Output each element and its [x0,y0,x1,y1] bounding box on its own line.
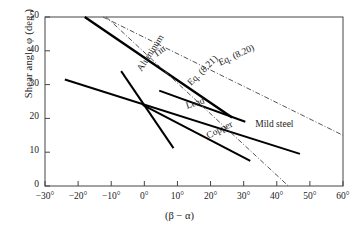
y-tick-label: 0 [9,179,39,189]
x-axis-label: (β − α) [0,210,359,221]
series-line [103,17,343,135]
y-tick-label: 40 [9,44,39,54]
series-annotation: Mild steel [255,119,293,129]
series-line [65,80,300,154]
y-tick-label: 10 [9,145,39,155]
y-tick-label: 50 [9,10,39,20]
series-line [121,71,173,148]
figure: Shear angle φ (deg.) (β − α) 01020304050… [0,0,359,235]
x-tick-label: 60° [323,191,359,201]
y-tick-label: 30 [9,78,39,88]
y-tick-label: 20 [9,111,39,121]
